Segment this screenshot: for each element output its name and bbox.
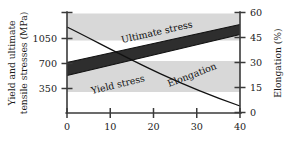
right-tick-label-45: 45 — [250, 32, 262, 43]
left-axis-title-line2: tensile stresses (MPa) — [18, 12, 29, 115]
x-tick-label-0: 0 — [64, 121, 70, 132]
x-tick-label-40: 40 — [234, 121, 246, 132]
stress-elongation-chart: 350 700 1050 0 15 30 45 60 0 10 20 30 40… — [0, 0, 288, 143]
left-tick-label-350: 350 — [39, 83, 57, 94]
right-tick-label-30: 30 — [250, 57, 262, 68]
x-tick-label-30: 30 — [191, 121, 203, 132]
left-tick-label-1050: 1050 — [33, 33, 57, 44]
right-tick-label-60: 60 — [250, 7, 262, 18]
right-axis-title: Elongation (%) — [272, 28, 283, 97]
left-tick-label-700: 700 — [39, 58, 57, 69]
left-axis-title-line1: Yield and ultimate — [6, 20, 17, 106]
x-tick-label-10: 10 — [104, 121, 116, 132]
right-tick-label-0: 0 — [250, 107, 256, 118]
x-tick-label-20: 20 — [147, 121, 159, 132]
right-tick-label-15: 15 — [250, 82, 262, 93]
